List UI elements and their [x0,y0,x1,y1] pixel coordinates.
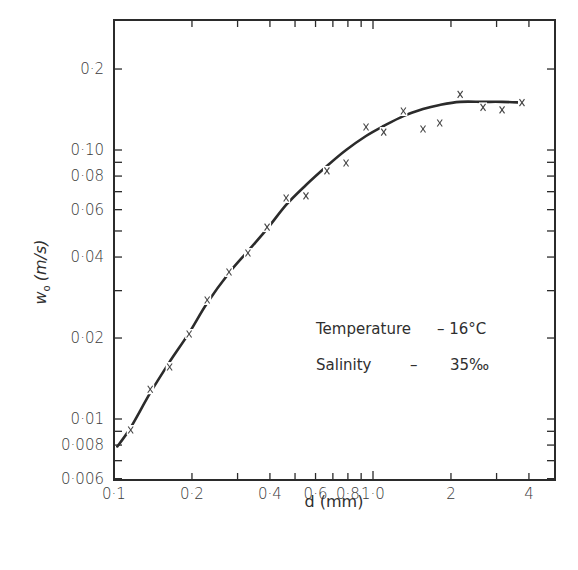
data-point-x-marker [127,425,135,435]
legend-temperature-label: Temperature [315,320,411,338]
chart: 0·10·20·40·60·81·024 0·20·100·080·060·04… [0,0,578,570]
y-tick-label: 0·04 [71,248,104,266]
y-axis-subscript: o [41,285,52,291]
y-tick-label: 0·2 [80,60,104,78]
y-axis-units: (m/s) [31,239,50,281]
x-tick-label: 0·4 [258,485,282,503]
legend-salinity-dash: – [410,356,418,374]
data-point-x-marker [263,222,271,232]
x-tick-label: 2 [446,485,456,503]
y-tick-labels: 0·20·100·080·060·040·020·010·0080·006 [61,60,104,488]
data-point-x-marker [302,191,310,201]
data-point-x-marker [146,384,154,394]
y-tick-label: 0·006 [61,470,104,488]
data-point-x-marker [244,248,252,258]
x-tick-label: 1·0 [361,485,385,503]
data-point-x-marker [323,166,331,176]
y-tick-label: 0·06 [71,201,104,219]
data-point-x-marker [166,362,174,372]
y-tick-label: 0·02 [71,329,104,347]
legend-temperature-value: – 16°C [437,320,486,338]
data-point-x-marker [225,267,233,277]
legend: Temperature – 16°C Salinity – 35‰ [315,320,489,374]
data-point-x-marker [362,122,370,132]
fitted-curve [117,102,522,447]
fitted-curve-line [117,102,522,447]
y-tick-label: 0·08 [71,167,104,185]
data-point-x-marker [399,106,407,116]
data-point-x-marker [479,102,487,112]
plot-frame [114,20,555,480]
data-point-x-marker [436,118,444,128]
legend-salinity-value: 35‰ [450,356,489,374]
x-tick-label: 0·1 [102,485,126,503]
axis-ticks [114,20,555,480]
data-point-x-marker [380,127,388,137]
data-point-x-marker [456,89,464,99]
x-tick-label: 0·2 [180,485,204,503]
y-tick-label: 0·10 [71,141,104,159]
y-tick-label: 0·008 [61,436,104,454]
data-point-x-marker [185,329,193,339]
y-tick-label: 0·01 [71,410,104,428]
y-axis-symbol: w [31,291,50,305]
data-point-x-marker [282,193,290,203]
data-point-x-marker [419,124,427,134]
data-point-x-marker [498,105,506,115]
y-axis-title-text: wo(m/s) [31,239,52,304]
y-axis-title: wo(m/s) [31,239,52,304]
data-point-x-marker [203,295,211,305]
data-point-x-marker [342,158,350,168]
x-axis-title: d (mm) [305,492,364,511]
x-tick-label: 4 [524,485,534,503]
data-point-x-marker [518,98,526,108]
legend-salinity-label: Salinity [316,356,372,374]
plot-border [114,20,555,480]
data-markers [127,89,526,435]
